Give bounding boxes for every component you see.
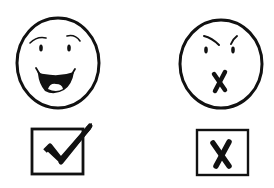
angry-face-icon <box>180 20 262 108</box>
happy-face-icon <box>17 18 99 108</box>
checkmark-box-icon <box>32 123 92 174</box>
x-box-icon <box>197 130 248 175</box>
illustration <box>0 0 274 188</box>
